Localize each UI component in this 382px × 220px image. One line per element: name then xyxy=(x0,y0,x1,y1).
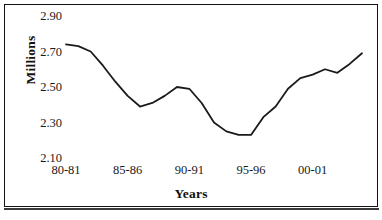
x-axis-title: Years xyxy=(0,186,382,202)
x-tick-label: 90-91 xyxy=(159,163,219,178)
x-tick-label: 95-96 xyxy=(221,163,281,178)
x-tick-label: 85-86 xyxy=(98,163,158,178)
chart-figure: Millions 2.902.702.502.302.10 80-8185-86… xyxy=(0,0,382,220)
x-tick-label: 00-01 xyxy=(283,163,343,178)
x-axis-tick-labels: 80-8185-8690-9195-9600-01 xyxy=(0,163,382,181)
x-tick-label: 80-81 xyxy=(36,163,96,178)
series-polyline xyxy=(66,44,362,135)
